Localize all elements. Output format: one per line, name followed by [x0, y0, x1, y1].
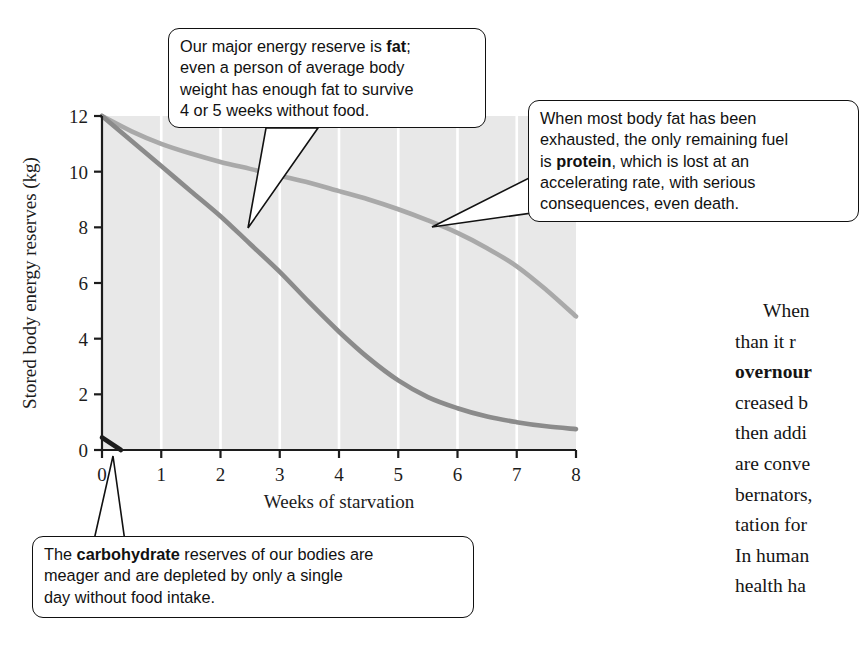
body-line-6: are conve [735, 449, 859, 480]
y-axis-ticks [94, 116, 102, 450]
body-line-2: than it r [735, 327, 859, 358]
x-tick-label-6: 6 [453, 464, 463, 485]
x-tick-label-2: 2 [216, 464, 226, 485]
y-tick-label-2: 2 [79, 384, 89, 405]
carb-callout-line-1: The carbohydrate reserves of our bodies … [44, 545, 373, 563]
body-line-3: overnour [735, 357, 859, 388]
body-line-8: tation for [735, 510, 859, 541]
x-axis-ticks [102, 450, 576, 458]
x-tick-label-7: 7 [512, 464, 522, 485]
y-tick-label-12: 12 [69, 106, 88, 127]
x-tick-label-3: 3 [275, 464, 285, 485]
starvation-energy-reserves-figure: 0 2 4 6 8 10 12 0 1 2 3 4 5 6 7 8 Weeks … [0, 0, 620, 652]
carb-callout-line-3: day without food intake. [44, 588, 215, 606]
fat-callout: Our major energy reserve is fat; even a … [168, 28, 486, 128]
x-axis-title: Weeks of starvation [264, 491, 415, 512]
x-tick-label-1: 1 [157, 464, 167, 485]
body-line-7: bernators, [735, 480, 859, 511]
body-line-9: In human [735, 541, 859, 572]
protein-callout-line-1: When most body fat has been [540, 109, 756, 127]
fat-callout-line-1: Our major energy reserve is fat; [180, 37, 411, 55]
body-line-10: health ha [735, 571, 859, 602]
y-tick-label-0: 0 [79, 440, 89, 461]
y-tick-label-4: 4 [79, 329, 89, 350]
y-tick-label-6: 6 [79, 273, 89, 294]
protein-callout-line-4: accelerating rate, with serious [540, 173, 755, 191]
x-tick-label-0: 0 [97, 464, 107, 485]
protein-callout: When most body fat has been exhausted, t… [528, 100, 859, 222]
fat-callout-line-2: even a person of average body [180, 58, 404, 76]
y-tick-label-10: 10 [69, 162, 88, 183]
body-line-5: then addi [735, 418, 859, 449]
body-line-4: creased b [735, 388, 859, 419]
body-text-column: When than it r overnour creased b then a… [735, 296, 859, 602]
protein-callout-line-3: is protein, which is lost at an [540, 152, 749, 170]
x-tick-label-4: 4 [334, 464, 344, 485]
fat-callout-line-3: weight has enough fat to survive [180, 80, 414, 98]
protein-callout-line-5: consequences, even death. [540, 194, 739, 212]
protein-callout-line-2: exhausted, the only remaining fuel [540, 130, 788, 148]
carbohydrate-callout: The carbohydrate reserves of our bodies … [32, 536, 474, 618]
carb-callout-line-2: meager and are depleted by only a single [44, 566, 343, 584]
body-line-1: When [735, 296, 859, 327]
fat-callout-line-4: 4 or 5 weeks without food. [180, 101, 369, 119]
page-root: 0 2 4 6 8 10 12 0 1 2 3 4 5 6 7 8 Weeks … [0, 0, 859, 652]
y-tick-label-8: 8 [79, 217, 89, 238]
y-axis-title: Stored body energy reserves (kg) [19, 157, 41, 409]
x-tick-label-5: 5 [394, 464, 404, 485]
x-tick-label-8: 8 [571, 464, 581, 485]
